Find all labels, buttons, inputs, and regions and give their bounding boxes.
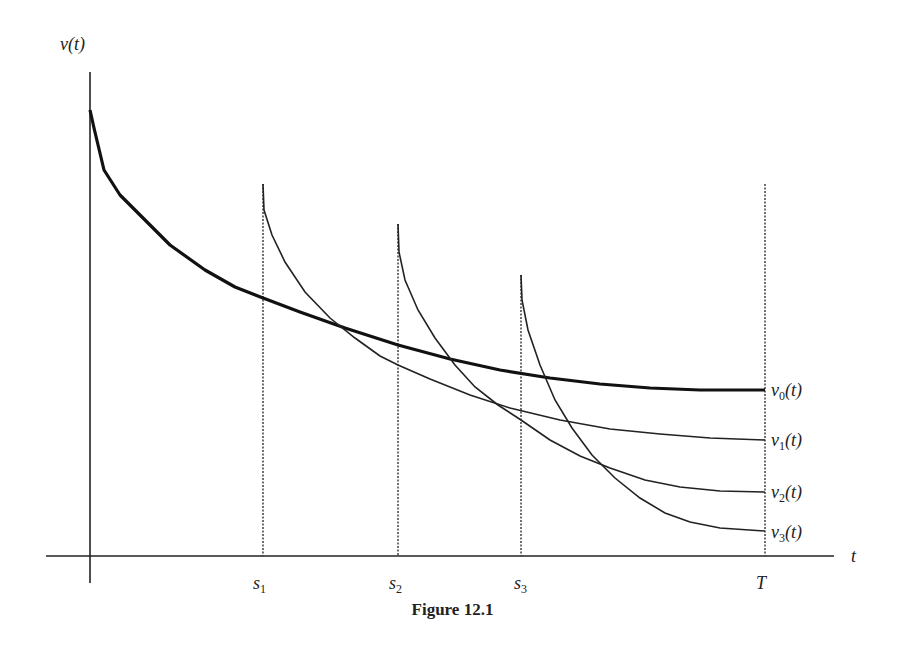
- tick-T: T: [756, 573, 766, 597]
- label-v3: v3(t): [771, 522, 802, 546]
- tick-s3: s3: [514, 573, 527, 597]
- tick-s1: s1: [253, 573, 266, 597]
- curve-v1: [263, 184, 765, 440]
- curve-v2: [398, 224, 765, 492]
- y-axis-label: v(t): [60, 34, 85, 55]
- curve-v0: [90, 110, 765, 390]
- label-v2: v2(t): [771, 482, 802, 506]
- figure-caption: Figure 12.1: [0, 600, 905, 620]
- curve-v3: [521, 275, 765, 531]
- figure-canvas: [0, 0, 905, 664]
- x-axis-label: t: [851, 546, 856, 567]
- label-v0: v0(t): [771, 380, 802, 404]
- label-v1: v1(t): [771, 430, 802, 454]
- tick-s2: s2: [389, 573, 402, 597]
